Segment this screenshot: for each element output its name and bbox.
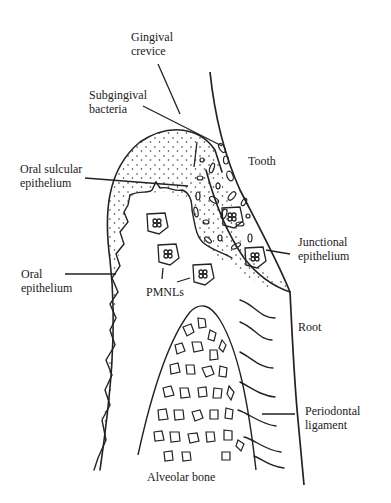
- pmnl-cell: [193, 264, 214, 285]
- alveolar-bone-outline: [138, 306, 256, 470]
- label-pmnls: PMNLs: [146, 285, 184, 299]
- label-root: Root: [298, 320, 321, 334]
- label-oral-epithelium: Oral epithelium: [21, 267, 72, 295]
- bone-trabeculae: [154, 318, 244, 461]
- alveolar-bone: [138, 306, 256, 470]
- label-junctional-epithelium: Junctional epithelium: [298, 235, 349, 263]
- label-alveolar-bone: Alveolar bone: [147, 470, 215, 484]
- leader-gingival-crevice: [158, 64, 180, 114]
- pmnl-cell: [147, 213, 168, 234]
- leader-pmnls-2: [177, 278, 190, 282]
- leader-pmnls-1: [162, 268, 163, 279]
- leader-junctional-epithelium: [266, 250, 290, 254]
- label-subgingival-bacteria: Subgingival bacteria: [89, 88, 147, 116]
- pmnl-cell: [158, 244, 179, 265]
- label-oral-sulcular-epithelium: Oral sulcular epithelium: [20, 162, 82, 190]
- label-tooth: Tooth: [248, 154, 276, 168]
- label-periodontal-ligament: Periodontal ligament: [305, 404, 360, 432]
- label-gingival-crevice: Gingival crevice: [131, 30, 173, 58]
- periodontal-ligament-fibers: [238, 300, 284, 468]
- leader-lines: [65, 0, 295, 414]
